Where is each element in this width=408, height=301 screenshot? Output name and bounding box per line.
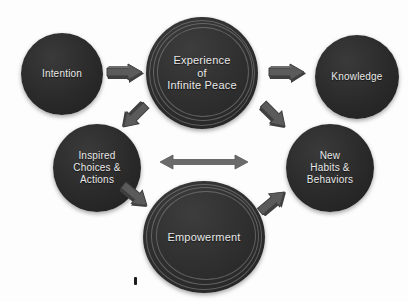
arrow-experience-to-habits <box>254 96 294 136</box>
node-new-habits-and-behaviors[interactable]: NewHabits &Behaviors <box>286 124 374 212</box>
node-label-experience: ExperienceofInfinite Peace <box>163 54 240 93</box>
node-knowledge[interactable]: Knowledge <box>315 35 399 119</box>
diagram-canvas: ExperienceofInfinite Peace Intention Kno… <box>0 0 408 301</box>
node-experience-of-infinite-peace[interactable]: ExperienceofInfinite Peace <box>146 17 258 129</box>
arrow-inspired-habits-bidirectional <box>159 152 249 172</box>
node-empowerment[interactable]: Empowerment <box>143 181 265 293</box>
arrow-intention-to-experience <box>104 62 146 84</box>
node-label-habits: NewHabits &Behaviors <box>303 150 357 185</box>
node-label-inspired: InspiredChoices &Actions <box>69 150 124 185</box>
scan-artifact-speck <box>134 277 137 285</box>
node-label-empowerment: Empowerment <box>163 231 244 244</box>
node-intention[interactable]: Intention <box>21 33 103 115</box>
node-label-knowledge: Knowledge <box>327 71 386 83</box>
node-label-intention: Intention <box>38 68 86 80</box>
arrow-experience-to-knowledge <box>266 62 308 84</box>
